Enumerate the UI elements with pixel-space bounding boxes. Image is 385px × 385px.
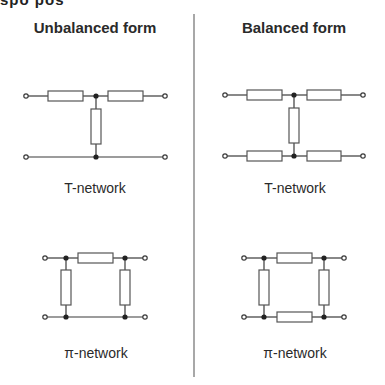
junction-dot (122, 255, 127, 260)
junction-dot (122, 314, 127, 319)
terminal-icon (43, 315, 47, 319)
resistor-shunt-1 (259, 270, 269, 305)
terminal-icon (24, 94, 28, 98)
label-balanced-t-network: T-network (264, 180, 325, 196)
terminal-icon (223, 154, 227, 158)
junction-dot (291, 153, 296, 158)
terminal-icon (143, 256, 147, 260)
terminal-icon (163, 94, 167, 98)
junction-dot (321, 314, 326, 319)
unbalanced-pi-network (43, 253, 147, 320)
resistor-series-3 (247, 151, 282, 161)
resistor-series-1 (247, 90, 282, 100)
resistor-shunt-2 (120, 270, 130, 305)
junction-dot (93, 154, 98, 159)
label-unbalanced-t-network: T-network (64, 180, 125, 196)
junction-dot (291, 92, 296, 97)
resistor-series-2 (277, 312, 312, 322)
junction-dot (63, 314, 68, 319)
terminal-icon (163, 155, 167, 159)
junction-dot (63, 255, 68, 260)
terminal-icon (342, 315, 346, 319)
resistor-shunt (289, 108, 299, 143)
resistor-series-1 (48, 91, 83, 101)
terminal-icon (24, 155, 28, 159)
balanced-pi-network (242, 253, 346, 322)
terminal-icon (43, 256, 47, 260)
balanced-t-network (223, 90, 365, 161)
unbalanced-t-network (24, 91, 167, 160)
resistor-series-1 (277, 253, 312, 263)
label-balanced-pi-network: π-network (263, 345, 326, 361)
resistor-shunt-2 (319, 270, 329, 305)
circuit-diagrams (0, 0, 385, 385)
resistor-series-2 (307, 90, 341, 100)
resistor-shunt-1 (61, 270, 71, 305)
junction-dot (321, 255, 326, 260)
terminal-icon (143, 315, 147, 319)
resistor-shunt (91, 109, 101, 144)
label-unbalanced-pi-network: π-network (64, 345, 127, 361)
resistor-series-4 (307, 151, 341, 161)
terminal-icon (242, 256, 246, 260)
terminal-icon (361, 93, 365, 97)
terminal-icon (223, 93, 227, 97)
junction-dot (261, 314, 266, 319)
terminal-icon (361, 154, 365, 158)
terminal-icon (342, 256, 346, 260)
junction-dot (261, 255, 266, 260)
resistor-series-2 (108, 91, 143, 101)
terminal-icon (242, 315, 246, 319)
resistor-series (78, 253, 113, 263)
junction-dot (93, 93, 98, 98)
